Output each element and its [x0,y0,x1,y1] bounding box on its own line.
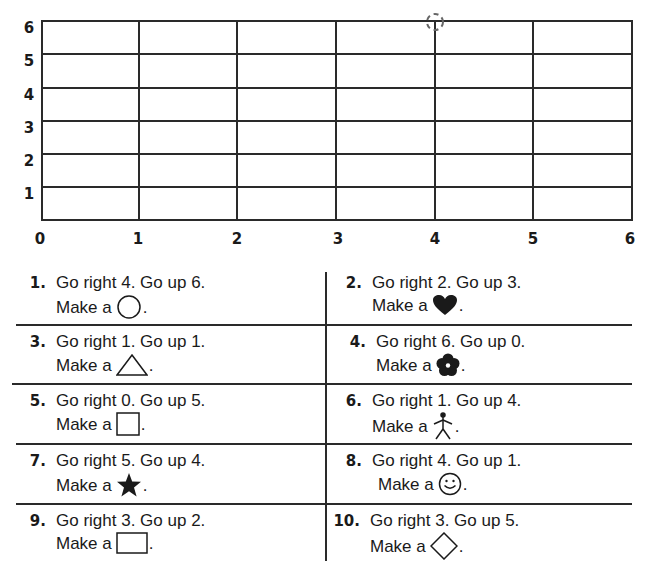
item-number: 9. [16,511,46,532]
grid-lines [0,0,647,250]
y-tick-1: 1 [22,185,36,203]
x-tick-6: 6 [620,230,640,248]
y-tick-4: 4 [22,86,36,104]
item-number: 8. [332,451,362,472]
item-make-label: Make a [56,475,112,496]
item-directions: Go right 6. Go up 0. [376,331,525,352]
item-directions: Go right 0. Go up 5. [56,390,205,411]
x-tick-0: 0 [30,230,50,248]
item-directions: Go right 3. Go up 5. [370,510,519,531]
item-number: 5. [16,391,46,412]
square-icon [116,412,140,436]
x-tick-4: 4 [425,230,445,248]
item-number: 3. [16,332,46,353]
row-divider [16,503,632,505]
y-tick-3: 3 [22,119,36,137]
smiley-icon [438,472,462,496]
star-icon [116,472,142,498]
item-make-label: Make a [56,355,112,376]
item-make-label: Make a [376,355,432,376]
rectangle-icon [116,532,148,554]
item-make-label: Make a [378,474,434,495]
diamond-icon [430,532,458,560]
item-directions: Go right 4. Go up 1. [372,450,521,471]
triangle-icon [116,353,148,377]
stick-figure-icon [432,412,454,440]
column-divider [325,272,327,561]
item-directions: Go right 5. Go up 4. [56,450,205,471]
circle-icon [116,294,142,320]
heart-icon [432,294,458,316]
row-divider [16,443,632,445]
item-make-label: Make a [56,297,112,318]
item-number: 4. [336,332,366,353]
item-number: 1. [16,273,46,294]
row-divider [16,324,632,326]
x-tick-2: 2 [227,230,247,248]
item-make-label: Make a [56,414,112,435]
item-directions: Go right 3. Go up 2. [56,510,205,531]
row-divider [12,383,632,385]
item-make-label: Make a [372,416,428,437]
item-make-label: Make a [56,533,112,554]
y-tick-5: 5 [22,52,36,70]
item-number: 10. [330,511,360,532]
x-tick-5: 5 [523,230,543,248]
item-make-label: Make a [370,536,426,557]
item-number: 2. [332,273,362,294]
item-directions: Go right 1. Go up 4. [372,390,521,411]
item-number: 7. [16,451,46,472]
item-directions: Go right 1. Go up 1. [56,331,205,352]
x-tick-3: 3 [328,230,348,248]
item-directions: Go right 4. Go up 6. [56,272,205,293]
item-make-label: Make a [372,295,428,316]
item-directions: Go right 2. Go up 3. [372,272,521,293]
x-tick-1: 1 [128,230,148,248]
y-tick-6: 6 [22,19,36,37]
flower-icon [436,353,460,377]
y-tick-2: 2 [22,152,36,170]
item-number: 6. [332,391,362,412]
